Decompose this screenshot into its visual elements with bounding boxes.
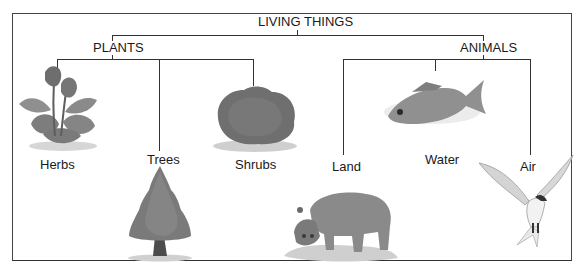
animals-branch-line [343, 59, 530, 60]
conifer-tree-icon [125, 166, 195, 262]
plants-branch-line [57, 59, 254, 60]
trees-label: Trees [147, 153, 180, 167]
root-label: LIVING THINGS [258, 15, 353, 29]
water-label: Water [425, 153, 459, 167]
animals-label: ANIMALS [460, 41, 517, 55]
shrubs-label: Shrubs [235, 158, 276, 172]
fish-icon [382, 68, 492, 130]
plants-label: PLANTS [93, 41, 144, 55]
hippopotamus-icon [284, 188, 400, 264]
herbs-label: Herbs [40, 158, 75, 172]
root-branch-line [112, 35, 484, 36]
shrubs-drop [253, 59, 254, 86]
herb-plant-icon [15, 64, 105, 152]
air-drop [530, 59, 531, 155]
land-drop [343, 59, 344, 155]
shrub-bush-icon [210, 84, 300, 154]
land-label: Land [332, 160, 361, 174]
tern-bird-icon [475, 153, 575, 249]
trees-drop [159, 59, 160, 151]
